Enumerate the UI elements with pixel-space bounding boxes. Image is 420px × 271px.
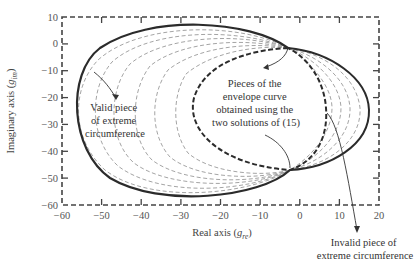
y-tick-label: −60 <box>42 200 58 211</box>
envelope-arrow-top <box>266 48 288 67</box>
invalid-extreme-circumference <box>288 48 369 170</box>
y-axis-title: Imaginary axis (gim) <box>5 68 19 154</box>
valid-arrow <box>94 72 116 98</box>
x-tick-label: −60 <box>54 210 70 221</box>
x-tick-label: −10 <box>252 210 268 221</box>
y-tick-label: 0 <box>53 38 58 49</box>
y-tick-label: −50 <box>42 173 58 184</box>
x-tick-label: −20 <box>212 210 228 221</box>
y-tick-label: −30 <box>42 119 58 130</box>
y-tick-label: −10 <box>42 65 58 76</box>
y-tick-labels: 10 0 −10 −20 −30 −40 −50 −60 <box>42 12 58 211</box>
annotation-valid: Valid piece of extreme circumference <box>85 102 145 139</box>
annotation-arrows <box>94 48 357 230</box>
y-tick-label: −20 <box>42 92 58 103</box>
annotation-envelope: Pieces of the envelope curve obtained us… <box>212 78 300 129</box>
y-tick-label: −40 <box>42 146 58 157</box>
x-tick-labels: −60 −50 −40 −30 −20 −10 0 10 20 <box>54 210 384 221</box>
y-tick-label: 10 <box>48 12 59 23</box>
x-tick-label: 10 <box>334 210 345 221</box>
x-tick-label: 20 <box>374 210 385 221</box>
x-tick-label: 0 <box>297 210 302 221</box>
chart: −60 −50 −40 −30 −20 −10 0 10 20 10 0 −10… <box>0 0 420 271</box>
envelope-arrow-bottom <box>265 135 290 168</box>
x-axis-title: Real axis (gre) <box>192 227 252 241</box>
x-tick-label: −50 <box>93 210 109 221</box>
x-tick-label: −30 <box>173 210 189 221</box>
x-tick-label: −40 <box>133 210 149 221</box>
annotation-invalid: Invalid piece of extreme circumference <box>317 237 414 261</box>
arrowheads <box>112 64 360 233</box>
